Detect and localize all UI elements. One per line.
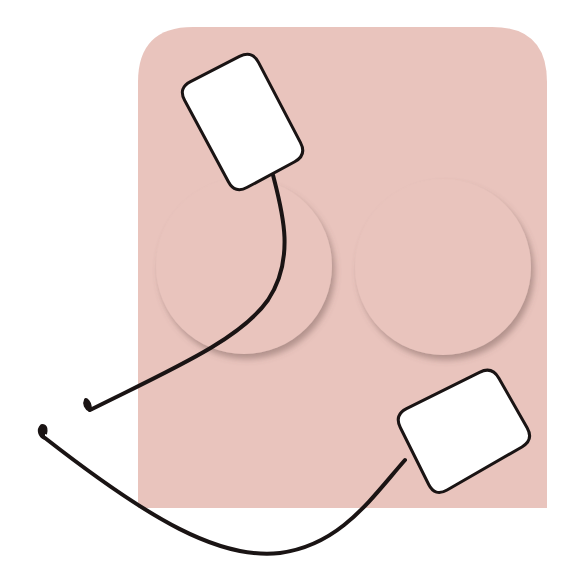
wire-bottom-connector-tip [40, 426, 46, 438]
circle-left [156, 178, 332, 354]
circle-right [355, 179, 531, 355]
electrode-pad-diagram [0, 0, 580, 582]
wire-top-connector-tip [85, 400, 90, 410]
